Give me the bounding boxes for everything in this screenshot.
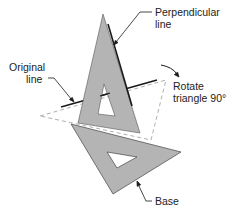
base-leader — [138, 184, 152, 201]
rotate-triangle-label: Rotate triangle 90° — [173, 80, 226, 104]
perpendicular-line-label: Perpendicular line — [155, 6, 220, 30]
base-arrowhead-icon — [137, 181, 141, 186]
original-line-label: Original line — [9, 61, 47, 85]
rotate-arrow — [161, 65, 177, 74]
upright-triangle — [78, 14, 140, 133]
original-leader — [48, 78, 72, 100]
perpendicular-leader — [116, 12, 152, 42]
base-label: Base — [155, 195, 179, 207]
rotate-arrowhead-icon — [174, 72, 179, 77]
perpendicular-arrowhead-icon — [114, 40, 118, 45]
diagram-canvas — [0, 0, 237, 215]
